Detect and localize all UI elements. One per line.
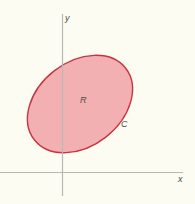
diagram-canvas <box>0 0 195 204</box>
y-axis-label: y <box>65 14 70 23</box>
region-label: R <box>80 96 87 105</box>
curve-label: C <box>121 120 128 129</box>
x-axis-label: x <box>178 175 183 184</box>
